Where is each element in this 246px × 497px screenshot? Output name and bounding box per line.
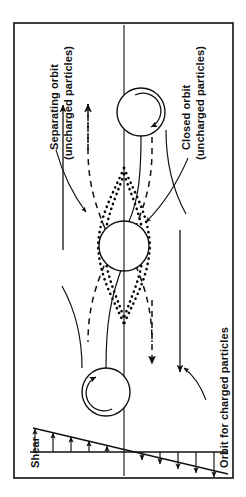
label-closed-orbit-line2: (uncharged particles): [194, 46, 206, 160]
shear-gradient-line: [33, 428, 228, 474]
label-orbit-charged-particles: Orbit for charged particles: [218, 327, 230, 468]
label-separating-orbit-line2: (uncharged particles): [62, 46, 74, 160]
streamline-lower: [106, 262, 124, 368]
leader-closed-orbit: [146, 158, 188, 222]
bottom-circle: [82, 368, 130, 416]
shear-arrows-left: [35, 429, 107, 452]
figure-canvas: Separating orbit (uncharged particles) C…: [0, 0, 246, 497]
label-shear: Shear: [29, 437, 41, 468]
diagram-svg: [0, 0, 246, 497]
label-closed-orbit-line1: Closed orbit: [180, 85, 192, 150]
leader-charged-orbit: [184, 368, 206, 400]
label-separating-orbit-line1: Separating orbit: [48, 64, 60, 150]
shear-profile: [30, 428, 228, 477]
top-circle: [117, 88, 165, 136]
